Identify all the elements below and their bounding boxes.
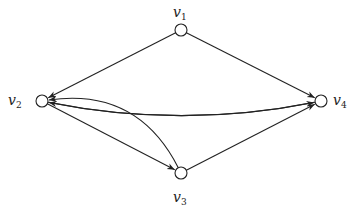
node-label-v2: v2: [8, 93, 22, 110]
label-subscript: 3: [181, 197, 187, 207]
edge-v2-to-v4: [48, 102, 314, 115]
edge-v3-to-v4: [186, 104, 314, 170]
label-variable: v: [333, 92, 341, 108]
label-subscript: 1: [181, 12, 187, 22]
node-label-v4: v4: [333, 93, 347, 110]
node-v2: [36, 95, 48, 107]
node-label-v1: v1: [173, 5, 187, 22]
node-v1: [175, 24, 187, 36]
label-variable: v: [8, 92, 16, 108]
node-v4: [315, 95, 327, 107]
label-variable: v: [173, 4, 181, 20]
label-variable: v: [173, 189, 181, 205]
edge-v1-to-v4: [186, 33, 314, 98]
edge-v2-to-v3: [47, 104, 174, 170]
graph-canvas: [0, 0, 363, 211]
node-label-v3: v3: [173, 190, 187, 207]
label-subscript: 4: [341, 100, 347, 110]
edge-v1-to-v2: [48, 33, 175, 98]
edge-v3-to-v2: [49, 98, 178, 167]
nodes-layer: [36, 24, 327, 179]
node-v3: [175, 167, 187, 179]
edges-layer: [47, 33, 315, 171]
label-subscript: 2: [16, 100, 22, 110]
